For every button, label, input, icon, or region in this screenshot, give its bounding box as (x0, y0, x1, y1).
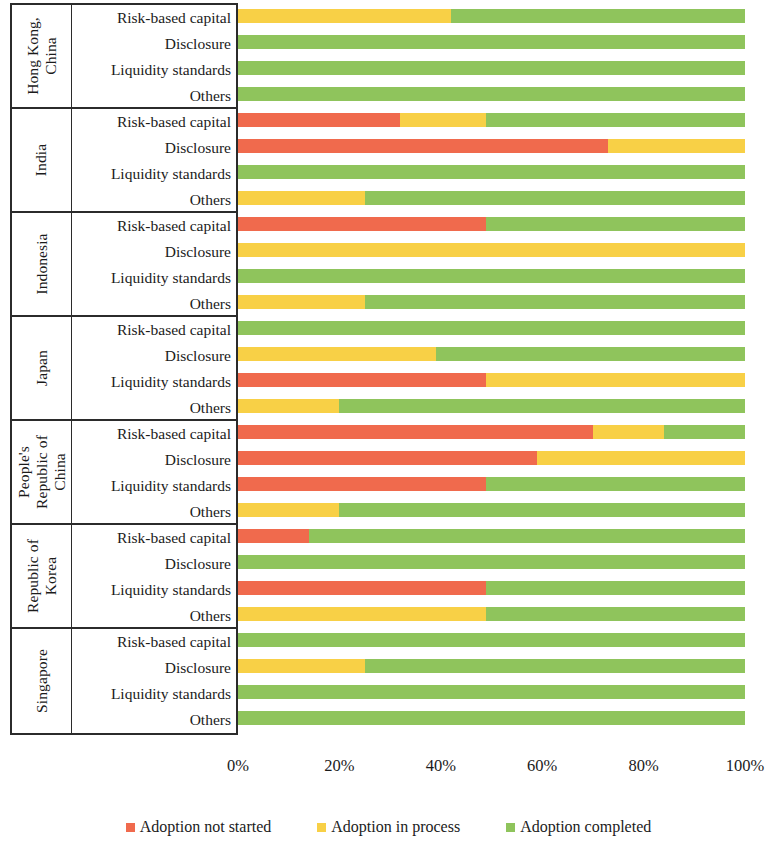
bar-segment-in-process (238, 295, 365, 309)
legend-label: Adoption not started (140, 817, 272, 837)
bar-group-japan (238, 315, 745, 419)
stacked-bar-india-risk-based-capital (238, 113, 745, 127)
x-tick-label: 40% (426, 756, 456, 776)
bar-segment-completed (309, 529, 745, 543)
bar-row (238, 315, 745, 341)
measure-label-disclosure: Disclosure (72, 239, 236, 265)
measure-label-liquidity-standards: Liquidity standards (72, 577, 236, 603)
stacked-bar-people-s-republic-of-china-liquidity-standards (238, 477, 745, 491)
bar-segment-completed (339, 503, 745, 517)
stacked-bar-india-disclosure (238, 139, 745, 153)
country-label-line: China (51, 435, 69, 509)
stacked-bar-indonesia-risk-based-capital (238, 217, 745, 231)
bar-segment-in-process (537, 451, 745, 465)
bar-segment-not-started (238, 113, 400, 127)
bar-segment-in-process (238, 503, 339, 517)
bar-segment-completed (451, 9, 745, 23)
country-label: India (32, 144, 50, 176)
bar-row (238, 185, 745, 211)
measure-label-liquidity-standards: Liquidity standards (72, 161, 236, 187)
bar-segment-completed (238, 165, 745, 179)
country-label-line: Indonesia (33, 233, 51, 294)
bar-segment-completed (238, 685, 745, 699)
country-label-line: People's (15, 435, 33, 509)
bar-row (238, 133, 745, 159)
bar-segment-not-started (238, 581, 486, 595)
country-label-line: India (32, 144, 50, 176)
x-tick-label: 0% (227, 756, 249, 776)
measure-label-risk-based-capital: Risk-based capital (72, 629, 236, 655)
bar-segment-completed (486, 607, 745, 621)
country-label-line: Republic of (33, 435, 51, 509)
bar-segment-in-process (608, 139, 745, 153)
row-label-table: Hong Kong,ChinaRisk-based capitalDisclos… (10, 3, 238, 735)
legend-item-adoption-in-process: Adoption in process (317, 817, 460, 837)
bar-row (238, 679, 745, 705)
measure-label-liquidity-standards: Liquidity standards (72, 681, 236, 707)
country-label-cell: Hong Kong,China (12, 5, 72, 107)
measure-label-disclosure: Disclosure (72, 655, 236, 681)
bar-row (238, 575, 745, 601)
stacked-bar-hong-kong-china-others (238, 87, 745, 101)
country-label: People'sRepublic ofChina (15, 435, 69, 509)
country-label-cell: India (12, 109, 72, 211)
country-label: Singapore (33, 649, 51, 713)
bar-segment-in-process (238, 347, 436, 361)
measure-label-liquidity-standards: Liquidity standards (72, 473, 236, 499)
bar-segment-completed (365, 295, 745, 309)
bar-row (238, 289, 745, 315)
legend-item-adoption-completed: Adoption completed (506, 817, 651, 837)
bar-segment-completed (238, 711, 745, 725)
bar-segment-completed (238, 555, 745, 569)
x-tick-label: 20% (324, 756, 354, 776)
stacked-bar-india-others (238, 191, 745, 205)
bar-row (238, 445, 745, 471)
country-label-cell: Japan (12, 317, 72, 419)
bar-segment-completed (664, 425, 745, 439)
measure-label-list: Risk-based capitalDisclosureLiquidity st… (72, 5, 236, 107)
bar-row (238, 159, 745, 185)
measure-label-list: Risk-based capitalDisclosureLiquidity st… (72, 525, 236, 627)
measure-label-risk-based-capital: Risk-based capital (72, 109, 236, 135)
legend-label: Adoption in process (331, 817, 460, 837)
measure-label-others: Others (72, 707, 236, 733)
legend-swatch-icon (126, 823, 135, 832)
country-label-line: Singapore (33, 649, 51, 713)
bar-segment-completed (238, 61, 745, 75)
measure-label-risk-based-capital: Risk-based capital (72, 213, 236, 239)
country-label: Indonesia (33, 233, 51, 294)
measure-label-disclosure: Disclosure (72, 31, 236, 57)
measure-label-risk-based-capital: Risk-based capital (72, 317, 236, 343)
bar-segment-in-process (238, 659, 365, 673)
bar-row (238, 627, 745, 653)
measure-label-disclosure: Disclosure (72, 135, 236, 161)
bar-segment-completed (486, 217, 745, 231)
bar-segment-completed (238, 321, 745, 335)
bar-row (238, 705, 745, 731)
stacked-bar-singapore-liquidity-standards (238, 685, 745, 699)
measure-label-others: Others (72, 187, 236, 213)
bar-segment-completed (486, 477, 745, 491)
bar-segment-completed (436, 347, 745, 361)
bar-row (238, 653, 745, 679)
country-label-cell: Indonesia (12, 213, 72, 315)
country-label-line: Republic of (24, 539, 42, 613)
bar-row (238, 29, 745, 55)
bar-segment-completed (365, 659, 745, 673)
stacked-bar-hong-kong-china-risk-based-capital (238, 9, 745, 23)
country-group-singapore: SingaporeRisk-based capitalDisclosureLiq… (12, 629, 236, 733)
bar-segment-not-started (238, 139, 608, 153)
bar-segment-in-process (238, 191, 365, 205)
measure-label-list: Risk-based capitalDisclosureLiquidity st… (72, 109, 236, 211)
bar-group-singapore (238, 627, 745, 731)
bar-segment-completed (238, 269, 745, 283)
country-label: Hong Kong,China (24, 17, 60, 95)
bar-row (238, 523, 745, 549)
bar-row (238, 211, 745, 237)
measure-label-others: Others (72, 291, 236, 317)
bar-group-indonesia (238, 211, 745, 315)
bar-group-republic-of-korea (238, 523, 745, 627)
measure-label-liquidity-standards: Liquidity standards (72, 265, 236, 291)
bar-row (238, 341, 745, 367)
x-tick-label: 60% (527, 756, 557, 776)
